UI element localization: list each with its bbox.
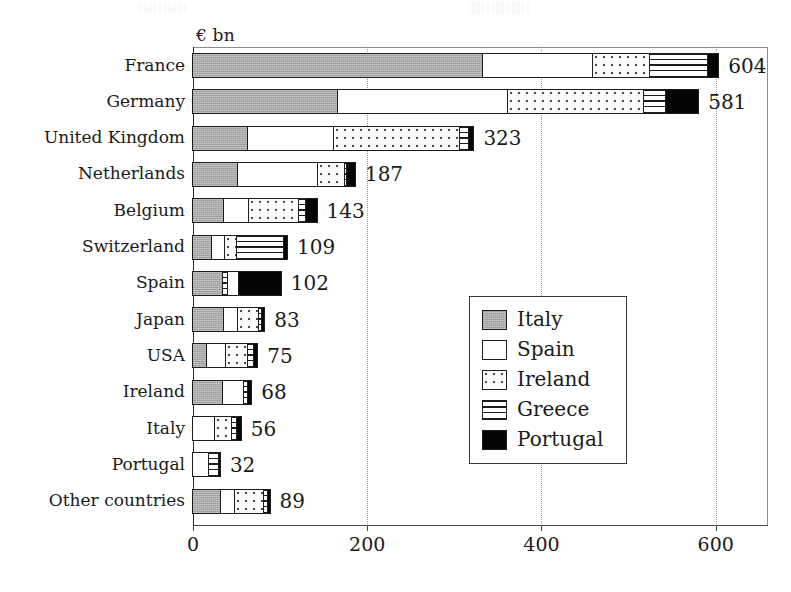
scan-artifact: [472, 2, 530, 14]
bar-segment-italy: [192, 380, 223, 405]
bar-segment-portugal: [707, 53, 719, 78]
bar-segment-portugal: [346, 162, 356, 187]
bar-segment-spain: [192, 416, 215, 441]
bar-segment-portugal: [267, 489, 271, 514]
bar-total-label: 581: [708, 92, 746, 112]
bar-other-countries: [193, 489, 271, 514]
bar-segment-portugal: [305, 198, 317, 223]
bar-segment-portugal: [253, 343, 258, 368]
bar-germany: [193, 89, 699, 114]
bar-total-label: 102: [291, 273, 329, 293]
bar-segment-ireland: [317, 162, 344, 187]
legend-item-portugal: Portugal: [482, 429, 603, 450]
bar-segment-italy: [192, 235, 212, 260]
category-label-portugal: Portugal: [112, 455, 185, 473]
category-label-netherlands: Netherlands: [78, 164, 185, 182]
bar-portugal: [193, 452, 221, 477]
bar-spain: [193, 271, 282, 296]
legend-swatch-italy: [482, 310, 507, 330]
bar-italy: [193, 416, 242, 441]
gridline-200: [367, 47, 368, 526]
x-tick-label: 600: [698, 533, 734, 555]
bar-segment-italy: [192, 89, 338, 114]
bar-belgium: [193, 198, 318, 223]
category-label-spain: Spain: [136, 273, 185, 291]
category-label-italy: Italy: [146, 419, 185, 437]
bar-segment-ireland: [248, 198, 300, 223]
legend-item-greece: Greece: [482, 399, 589, 420]
bar-segment-ireland: [592, 53, 651, 78]
tick-mark-600: [716, 525, 717, 531]
scan-artifact: [139, 3, 187, 12]
bar-segment-greece: [649, 53, 708, 78]
bar-segment-spain: [237, 162, 318, 187]
bar-segment-ireland: [234, 489, 265, 514]
bar-segment-italy: [192, 53, 483, 78]
category-label-switzerland: Switzerland: [82, 237, 185, 255]
bar-segment-spain: [223, 307, 238, 332]
legend-label: Spain: [517, 339, 575, 360]
legend: ItalySpainIrelandGreecePortugal: [469, 296, 627, 464]
bar-netherlands: [193, 162, 356, 187]
gridline-600: [716, 47, 717, 526]
bar-segment-portugal: [261, 307, 265, 332]
bar-total-label: 143: [327, 201, 365, 221]
bar-segment-italy: [192, 489, 221, 514]
axis-unit-label: € bn: [196, 26, 235, 44]
bar-segment-italy: [192, 343, 207, 368]
bar-total-label: 83: [274, 310, 299, 330]
bar-segment-ireland: [507, 89, 644, 114]
category-label-belgium: Belgium: [114, 201, 185, 219]
bar-segment-portugal: [236, 416, 242, 441]
bar-segment-portugal: [238, 271, 282, 296]
category-label-germany: Germany: [106, 92, 185, 110]
category-label-usa: USA: [147, 346, 185, 364]
bar-segment-portugal: [665, 89, 699, 114]
category-label-united-kingdom: United Kingdom: [44, 128, 185, 146]
bar-segment-italy: [192, 162, 238, 187]
tick-mark-0: [193, 525, 194, 531]
category-label-france: France: [124, 56, 185, 74]
x-tick-label: 0: [187, 533, 199, 555]
bar-segment-portugal: [468, 126, 474, 151]
category-label-other-countries: Other countries: [49, 491, 185, 509]
bar-segment-ireland: [237, 307, 259, 332]
tick-mark-200: [367, 525, 368, 531]
bar-segment-spain: [337, 89, 508, 114]
legend-swatch-ireland: [482, 370, 507, 390]
bar-total-label: 187: [365, 164, 403, 184]
legend-item-spain: Spain: [482, 339, 575, 360]
legend-swatch-greece: [482, 400, 507, 420]
bar-segment-italy: [192, 126, 248, 151]
bar-segment-italy: [192, 307, 224, 332]
bar-total-label: 109: [297, 237, 335, 257]
bar-segment-spain: [192, 452, 209, 477]
bar-total-label: 68: [261, 382, 286, 402]
x-tick-label: 200: [349, 533, 385, 555]
bar-switzerland: [193, 235, 288, 260]
x-axis-line: [193, 525, 768, 526]
bar-segment-portugal: [283, 235, 287, 260]
bar-segment-spain: [482, 53, 593, 78]
bar-japan: [193, 307, 265, 332]
legend-swatch-spain: [482, 340, 507, 360]
bar-segment-italy: [192, 198, 224, 223]
bar-segment-spain: [206, 343, 226, 368]
bar-segment-ireland: [333, 126, 460, 151]
bar-total-label: 32: [230, 455, 255, 475]
bar-segment-italy: [192, 271, 223, 296]
bar-total-label: 75: [267, 346, 292, 366]
legend-label: Portugal: [517, 429, 603, 450]
bar-total-label: 89: [280, 491, 305, 511]
bar-segment-greece: [643, 89, 666, 114]
bar-segment-spain: [220, 489, 235, 514]
legend-item-ireland: Ireland: [482, 369, 590, 390]
bar-ireland: [193, 380, 252, 405]
legend-item-italy: Italy: [482, 309, 563, 330]
bar-total-label: 323: [483, 128, 521, 148]
bar-segment-ireland: [214, 416, 232, 441]
legend-label: Ireland: [517, 369, 590, 390]
bar-segment-ireland: [225, 343, 248, 368]
bar-segment-portugal: [218, 452, 221, 477]
bar-united-kingdom: [193, 126, 474, 151]
